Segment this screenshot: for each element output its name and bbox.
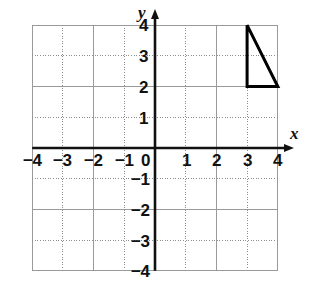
y-tick-label--4: −4 [131, 263, 149, 280]
x-tick-label-1: 1 [182, 152, 191, 169]
x-tick-label-4: 4 [273, 152, 282, 169]
x-tick-label-2: 2 [212, 152, 221, 169]
y-tick-label-1: 1 [139, 110, 148, 127]
x-tick-label--1: −1 [115, 152, 133, 169]
y-tick-label-3: 3 [139, 48, 148, 65]
y-tick-label--2: −2 [131, 202, 149, 219]
x-tick-label--2: −2 [84, 152, 102, 169]
origin-label: 0 [141, 152, 150, 169]
x-tick-label-3: 3 [243, 152, 252, 169]
plotted-shapes [247, 25, 278, 86]
coordinate-plane-canvas [0, 0, 315, 287]
x-axis-label: x [290, 125, 299, 142]
y-tick-label--1: −1 [131, 171, 149, 188]
x-tick-label--3: −3 [53, 152, 71, 169]
x-tick-label--4: −4 [23, 152, 41, 169]
y-axis-label: y [138, 4, 146, 21]
coordinate-plane-figure: −4 −3 −2 −1 1 2 3 4 0 4 3 2 1 −1 −2 −3 −… [0, 0, 315, 287]
y-tick-label--3: −3 [131, 233, 149, 250]
right-triangle-shape [247, 25, 278, 86]
y-tick-label-2: 2 [139, 79, 148, 96]
